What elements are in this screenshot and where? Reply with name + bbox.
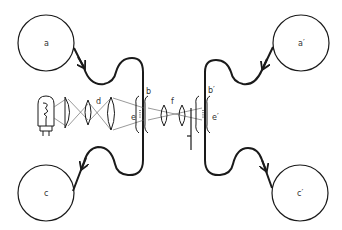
reel-c-prime-label: c′ xyxy=(297,189,303,198)
condenser-lens-icon xyxy=(65,97,70,128)
light-rays xyxy=(54,98,202,130)
film-gate-b xyxy=(136,96,148,133)
reel-c-label: c xyxy=(44,189,48,198)
label-e-prime: e′ xyxy=(212,113,219,122)
optical-printer-diagram: a a′ c c′ xyxy=(0,0,342,230)
reel-c-prime: c′ xyxy=(272,165,328,221)
arrow-icon xyxy=(78,57,84,67)
lens-d-icon xyxy=(108,97,115,130)
reel-a-prime: a′ xyxy=(273,15,329,71)
label-e: e xyxy=(131,113,136,122)
label-d: d xyxy=(96,97,101,106)
label-f: f xyxy=(171,97,174,106)
reel-a-prime-label: a′ xyxy=(298,39,305,48)
lens-icon xyxy=(85,100,91,125)
reel-c: c xyxy=(18,165,74,221)
lamp-icon xyxy=(38,96,54,136)
shutter-blade xyxy=(187,108,191,150)
lens-f1-icon xyxy=(161,105,167,126)
reel-a-label: a xyxy=(44,39,49,48)
label-b-prime: b′ xyxy=(208,86,215,95)
label-b: b xyxy=(146,87,151,96)
arrow-icon xyxy=(263,59,267,68)
film-gate-b-prime xyxy=(196,96,210,133)
reel-a: a xyxy=(18,15,74,71)
